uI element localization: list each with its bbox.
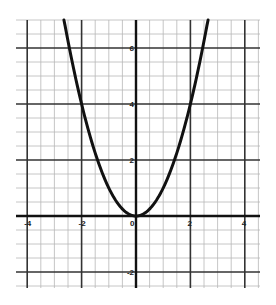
x-tick-label: -2 bbox=[79, 219, 87, 228]
axes bbox=[16, 20, 260, 288]
x-tick-label: -4 bbox=[24, 219, 32, 228]
y-tick-label: 6 bbox=[130, 44, 135, 53]
x-tick-label: 2 bbox=[187, 219, 192, 228]
x-tick-label: 0 bbox=[130, 219, 135, 228]
y-tick-label: -2 bbox=[127, 268, 135, 277]
y-tick-label: 4 bbox=[130, 100, 135, 109]
major-grid bbox=[16, 20, 260, 288]
minor-grid bbox=[16, 20, 260, 288]
x-tick-label: 4 bbox=[242, 219, 247, 228]
y-tick-label: 2 bbox=[130, 156, 135, 165]
parabola-chart: -4-2024 642-2 bbox=[0, 0, 276, 305]
